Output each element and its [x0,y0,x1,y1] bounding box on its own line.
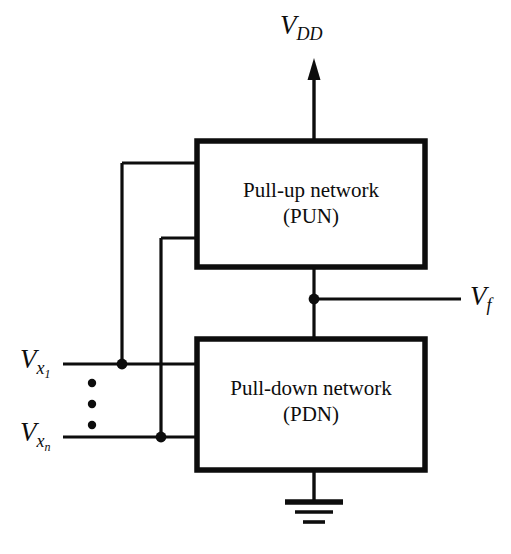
vx1-sub-index: 1 [45,367,51,381]
vxn-base: V [20,417,37,447]
cmos-logic-block-diagram: VDD Vf Vx1 Vxn Pull-up network (PUN) Pul… [0,0,511,554]
pull-down-network-label: Pull-down network (PDN) [197,376,425,427]
vx1-label: Vx1 [20,346,51,373]
ground-symbol-icon [285,470,343,522]
vf-label: Vf [470,283,492,310]
circuit-schematic-canvas [0,0,511,554]
output-node-wire [309,267,461,339]
vxn-sub-index: n [45,440,51,454]
vdd-label: VDD [280,12,323,39]
vxn-junction-dot [156,432,167,443]
vxn-sub-x: x [37,431,45,451]
vdd-base: V [280,10,297,40]
vdd-subscript: DD [297,24,323,44]
vf-base: V [470,281,487,311]
vertical-ellipsis-icon [88,379,96,429]
pun-label-line2: (PUN) [197,204,425,230]
vx1-subscript: x1 [37,358,51,378]
vxn-subscript: xn [37,431,51,451]
pdn-label-line2: (PDN) [197,402,425,428]
pull-up-network-label: Pull-up network (PUN) [197,178,425,229]
vdd-supply-arrow [308,58,321,141]
vx1-sub-x: x [37,358,45,378]
vf-subscript: f [487,295,492,315]
vxn-input-wire [63,238,197,442]
vx1-input-wire [63,163,197,369]
pun-label-line1: Pull-up network [197,178,425,204]
arrowhead-icon [308,58,321,80]
output-junction-dot [309,294,320,305]
vx1-base: V [20,344,37,374]
vx1-junction-dot [117,359,128,370]
pdn-label-line1: Pull-down network [197,376,425,402]
vxn-label: Vxn [20,419,51,446]
